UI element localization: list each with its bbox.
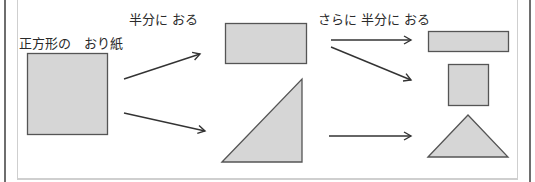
- quarter-small-square-shape: [449, 65, 489, 106]
- quarter-isosceles-triangle-shape: [428, 115, 508, 157]
- half-right-triangle-shape: [222, 79, 302, 162]
- half-rectangle-shape: [226, 24, 307, 64]
- diagram-canvas: [0, 0, 535, 182]
- arrow-to-small-square-icon: [331, 47, 411, 80]
- quarter-thin-rectangle-shape: [429, 32, 509, 52]
- square-paper-shape: [28, 54, 108, 135]
- arrow-to-triangle-icon: [124, 113, 205, 131]
- arrow-to-rectangle-icon: [124, 54, 200, 79]
